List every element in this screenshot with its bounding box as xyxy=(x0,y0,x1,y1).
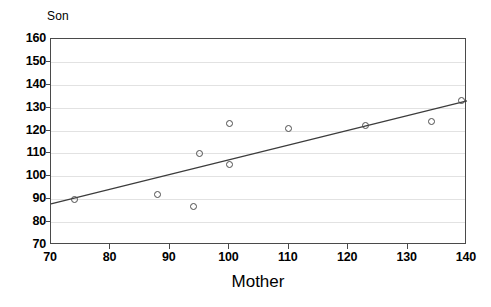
plot-area xyxy=(50,38,466,244)
data-point xyxy=(458,97,465,104)
y-tick-label-70: 70 xyxy=(2,238,46,250)
data-point xyxy=(428,118,435,125)
y-tick-label-130: 130 xyxy=(2,101,46,113)
y-tick-label-140: 140 xyxy=(2,78,46,90)
x-tick-mark-80 xyxy=(109,244,110,249)
data-point xyxy=(226,120,233,127)
x-tick-label-90: 90 xyxy=(139,250,199,264)
data-point xyxy=(362,122,369,129)
data-point xyxy=(190,203,197,210)
y-tick-label-150: 150 xyxy=(2,55,46,67)
x-tick-mark-100 xyxy=(228,244,229,249)
x-axis-tick-marks xyxy=(50,244,466,249)
data-point xyxy=(154,191,161,198)
data-point xyxy=(226,161,233,168)
y-axis-tick-labels: 708090100110120130140150160 xyxy=(0,38,46,244)
x-tick-label-130: 130 xyxy=(377,250,437,264)
data-point xyxy=(196,150,203,157)
y-axis-title: Son xyxy=(47,9,69,23)
y-tick-label-80: 80 xyxy=(2,215,46,227)
x-tick-mark-130 xyxy=(407,244,408,249)
x-axis-title: Mother xyxy=(50,272,466,292)
x-tick-mark-120 xyxy=(347,244,348,249)
y-tick-label-110: 110 xyxy=(2,146,46,158)
x-tick-label-140: 140 xyxy=(436,250,491,264)
y-tick-label-90: 90 xyxy=(2,192,46,204)
x-tick-label-70: 70 xyxy=(20,250,80,264)
chart-figure: Son 708090100110120130140150160 70809010… xyxy=(0,0,491,307)
data-point xyxy=(71,196,78,203)
data-points-layer xyxy=(51,39,465,243)
y-tick-label-160: 160 xyxy=(2,32,46,44)
y-tick-label-100: 100 xyxy=(2,169,46,181)
x-tick-label-100: 100 xyxy=(198,250,258,264)
y-tick-label-120: 120 xyxy=(2,124,46,136)
x-tick-mark-110 xyxy=(288,244,289,249)
x-axis-tick-labels: 708090100110120130140 xyxy=(50,250,466,270)
x-tick-label-110: 110 xyxy=(258,250,318,264)
x-tick-mark-90 xyxy=(169,244,170,249)
data-point xyxy=(285,125,292,132)
x-tick-label-80: 80 xyxy=(79,250,139,264)
x-tick-label-120: 120 xyxy=(317,250,377,264)
